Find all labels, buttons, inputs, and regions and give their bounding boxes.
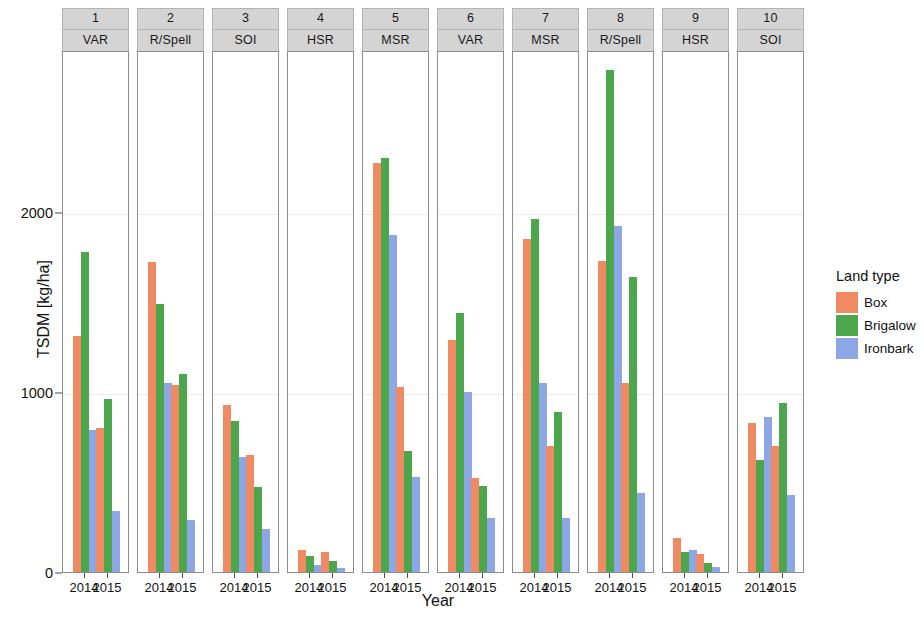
x-axis-tick-mark (684, 573, 685, 578)
bar-group-container (288, 52, 353, 572)
facet-strip-number: 8 (587, 8, 654, 29)
bar (696, 554, 704, 572)
bar (712, 567, 720, 572)
x-axis-tick-mark (557, 573, 558, 578)
bar (748, 423, 756, 572)
facet-strip-number: 4 (287, 8, 354, 29)
bar-group-container (138, 52, 203, 572)
facet-strip-number: 5 (362, 8, 429, 29)
facet-strip-number: 10 (737, 8, 804, 29)
x-axis-title: Year (62, 592, 814, 610)
plot-area (737, 51, 804, 573)
bar (171, 385, 179, 572)
bar (262, 529, 270, 572)
facet-panel: 10SOI20142015 (737, 8, 804, 606)
facet-strip-treatment: HSR (662, 29, 729, 51)
legend-item: Box (836, 291, 922, 314)
y-axis-tick-mark (55, 573, 62, 574)
x-axis-tick-mark (707, 573, 708, 578)
bar (96, 428, 104, 572)
bar (179, 374, 187, 572)
y-axis-tick-label: 1000 (21, 385, 53, 401)
facet-strip-number: 6 (437, 8, 504, 29)
x-axis-tick-mark (182, 573, 183, 578)
x-axis-tick-mark (384, 573, 385, 578)
bar-group-container (663, 52, 728, 572)
bar (373, 163, 381, 572)
facet-strip-treatment: VAR (437, 29, 504, 51)
bar (598, 261, 606, 572)
bar-group-container (738, 52, 803, 572)
bar (329, 561, 337, 572)
legend-title: Land type (836, 268, 922, 284)
facet-panel: 7MSR20142015 (512, 8, 579, 606)
bar (246, 455, 254, 572)
x-axis-tick-mark (159, 573, 160, 578)
bar (404, 451, 412, 572)
x-axis-tick-mark (407, 573, 408, 578)
x-axis-tick-mark (309, 573, 310, 578)
bar-group-container (438, 52, 503, 572)
plot-area (62, 51, 129, 573)
plot-area (662, 51, 729, 573)
bar (254, 487, 262, 572)
facet-panel: 6VAR20142015 (437, 8, 504, 606)
y-axis-tick-mark (55, 213, 62, 214)
bar (787, 495, 795, 572)
bar (621, 383, 629, 572)
facet-strip-number: 7 (512, 8, 579, 29)
bar (298, 550, 306, 572)
bar (673, 538, 681, 572)
facet-panel: 5MSR20142015 (362, 8, 429, 606)
bar (756, 460, 764, 572)
bar (771, 446, 779, 572)
legend-color-swatch (836, 292, 858, 313)
bar (231, 421, 239, 572)
bar (337, 568, 345, 573)
facet-panel: 4HSR20142015 (287, 8, 354, 606)
bar (412, 477, 420, 572)
facet-strip-treatment: MSR (512, 29, 579, 51)
bar (73, 336, 81, 572)
bar (321, 552, 329, 572)
bar (479, 486, 487, 572)
facet-strip-treatment: SOI (737, 29, 804, 51)
y-axis-tick-mark (55, 393, 62, 394)
bar-group-container (588, 52, 653, 572)
bar (704, 563, 712, 572)
bar (381, 158, 389, 572)
y-axis-tick-label: 2000 (21, 205, 53, 221)
legend-item-label: Brigalow (864, 318, 916, 333)
x-axis-tick-mark (257, 573, 258, 578)
facet-strip-treatment: SOI (212, 29, 279, 51)
facet-panel: 3SOI20142015 (212, 8, 279, 606)
legend: Land type BoxBrigalowIronbark (836, 268, 922, 360)
bar (471, 478, 479, 572)
plot-area (587, 51, 654, 573)
bar (606, 70, 614, 572)
x-axis-tick-mark (534, 573, 535, 578)
bar (448, 340, 456, 572)
y-axis-tick-label: 0 (45, 565, 53, 581)
bar (456, 313, 464, 572)
bar (81, 252, 89, 572)
bar-group-container (363, 52, 428, 572)
legend-items: BoxBrigalowIronbark (836, 291, 922, 360)
legend-item-label: Ironbark (864, 341, 914, 356)
facet-strip-treatment: HSR (287, 29, 354, 51)
facet-panel: 1VAR20142015 (62, 8, 129, 606)
faceted-bar-chart: TSDM [kg/ha] 010002000 1VAR201420152R/Sp… (0, 0, 924, 618)
plot-area (212, 51, 279, 573)
bar-group-container (513, 52, 578, 572)
bar (112, 511, 120, 572)
bar (523, 239, 531, 572)
facet-strip-treatment: R/Spell (137, 29, 204, 51)
x-axis-tick-mark (782, 573, 783, 578)
bar (779, 403, 787, 572)
plot-area (437, 51, 504, 573)
bar (629, 277, 637, 572)
legend-item-label: Box (864, 295, 887, 310)
x-axis-tick-mark (759, 573, 760, 578)
plot-area (287, 51, 354, 573)
bar-group-container (63, 52, 128, 572)
